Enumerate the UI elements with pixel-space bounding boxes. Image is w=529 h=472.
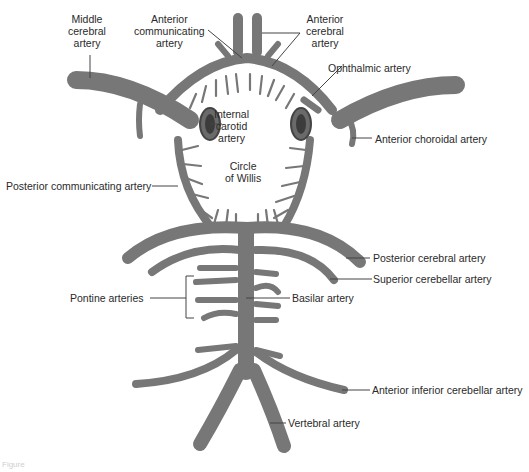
label-anterior-choroidal-artery: Anterior choroidal artery [375, 133, 487, 145]
label-vertebral-artery: Vertebral artery [288, 417, 360, 429]
label-line: carotid [214, 120, 249, 132]
label-line: Middle [68, 13, 106, 25]
label-anterior-inferior-cerebellar-artery: Anterior inferior cerebellar artery [372, 384, 523, 396]
label-line: artery [306, 37, 344, 49]
label-line: of Willis [225, 172, 261, 184]
label-line: Anterior [134, 13, 205, 25]
label-ophthalmic-artery: Ophthalmic artery [328, 62, 411, 74]
label-line: Circle [225, 160, 261, 172]
label-middle-cerebral-artery: Middle cerebral artery [68, 13, 106, 49]
label-posterior-cerebral-artery: Posterior cerebral artery [373, 252, 486, 264]
label-superior-cerebellar-artery: Superior cerebellar artery [373, 273, 491, 285]
label-line: artery [68, 37, 106, 49]
label-line: artery [214, 132, 249, 144]
label-line: cerebral [306, 25, 344, 37]
label-circle-of-willis: Circle of Willis [225, 160, 261, 184]
label-anterior-cerebral-artery: Anterior cerebral artery [306, 13, 344, 49]
label-line: artery [134, 37, 205, 49]
label-internal-carotid-artery: Internal carotid artery [214, 108, 249, 144]
label-line: cerebral [68, 25, 106, 37]
label-pontine-arteries: Pontine arteries [70, 292, 144, 304]
label-anterior-communicating-artery: Anterior communicating artery [134, 13, 205, 49]
label-line: communicating [134, 25, 205, 37]
label-line: Internal [214, 108, 249, 120]
label-basilar-artery: Basilar artery [292, 292, 354, 304]
label-posterior-communicating-artery: Posterior communicating artery [6, 180, 151, 192]
label-line: Anterior [306, 13, 344, 25]
figure-caption: Figure [2, 460, 25, 469]
